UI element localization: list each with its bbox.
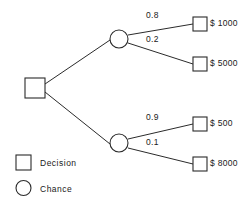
tree-graphics	[0, 0, 249, 209]
legend-label-chance: Chance	[40, 184, 72, 194]
payoff-label-5000: $ 5000	[210, 58, 238, 68]
terminal-node-payoff-1[interactable]	[193, 17, 207, 31]
root-decision-node[interactable]	[25, 78, 45, 98]
edge-lower-chance-to-payoff-4	[128, 148, 193, 164]
terminal-node-payoff-4[interactable]	[193, 157, 207, 171]
probability-label-0-8: 0.8	[146, 10, 159, 20]
terminal-node-payoff-2[interactable]	[193, 57, 207, 71]
payoff-label-1000: $ 1000	[210, 18, 238, 28]
edge-upper-chance-to-payoff-2	[128, 43, 193, 64]
edge-root-to-upper-chance	[45, 40, 110, 84]
legend-decision-icon	[16, 155, 31, 170]
terminal-node-payoff-3[interactable]	[193, 117, 207, 131]
legend-label-decision: Decision	[40, 158, 77, 168]
legend-chance-icon	[16, 181, 31, 196]
lower-chance-node[interactable]	[110, 134, 128, 152]
edge-lower-chance-to-payoff-3	[128, 124, 193, 139]
probability-label-0-2: 0.2	[146, 34, 159, 44]
payoff-label-500: $ 500	[210, 118, 233, 128]
probability-label-0-9: 0.9	[146, 112, 159, 122]
upper-chance-node[interactable]	[110, 30, 128, 48]
payoff-label-8000: $ 8000	[210, 158, 238, 168]
edge-upper-chance-to-payoff-1	[128, 24, 193, 35]
edge-root-to-lower-chance	[45, 92, 110, 144]
decision-tree-diagram: 0.8 0.2 0.9 0.1 $ 1000 $ 5000 $ 500 $ 80…	[0, 0, 249, 209]
probability-label-0-1: 0.1	[146, 137, 159, 147]
